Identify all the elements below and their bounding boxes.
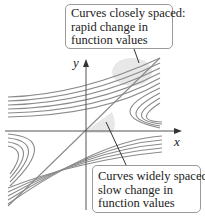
callout-line: rapid change in <box>71 21 167 35</box>
contour-diagram: y x Curves closely spaced: rapid change … <box>0 0 205 216</box>
x-axis-label: x <box>174 134 180 150</box>
callout-line: function values <box>98 197 195 211</box>
callout-widely-spaced: Curves widely spaced: slow change in fun… <box>92 165 201 213</box>
callout-line: Curves closely spaced: <box>71 7 167 21</box>
callout-line: Curves widely spaced: <box>98 170 195 184</box>
y-axis-arrow-icon <box>83 59 89 67</box>
y-axis-label: y <box>73 55 79 71</box>
callout-bottom-pointer <box>106 122 127 167</box>
callout-line: function values <box>71 34 167 48</box>
callout-closely-spaced: Curves closely spaced: rapid change in f… <box>65 4 173 49</box>
shade-widely-spaced <box>86 112 115 133</box>
callout-line: slow change in <box>98 184 195 198</box>
